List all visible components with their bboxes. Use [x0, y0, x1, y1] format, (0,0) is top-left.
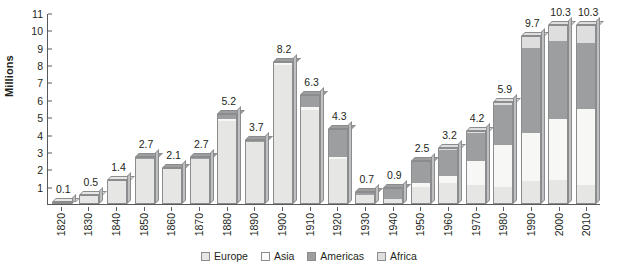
bar-column[interactable]: 3.7 [241, 14, 269, 204]
bar-segment-americas[interactable] [466, 133, 486, 161]
legend-item-label: Asia [274, 250, 294, 262]
bar-segment-europe[interactable] [328, 159, 348, 204]
stacked-bar[interactable] [355, 192, 375, 204]
bar-segment-asia[interactable] [493, 145, 513, 187]
bar-column[interactable]: 4.3 [324, 14, 352, 204]
x-axis-tick-label: 1890 [248, 213, 260, 236]
stacked-bar[interactable] [300, 95, 320, 204]
bar-segment-europe[interactable] [411, 187, 431, 204]
bar-value-label: 3.2 [442, 129, 457, 141]
bar-column[interactable]: 3.2 [434, 14, 462, 204]
stacked-bar[interactable] [438, 148, 458, 204]
bar-segment-asia[interactable] [438, 176, 458, 183]
bar-segment-europe[interactable] [438, 183, 458, 204]
stacked-bar[interactable] [521, 36, 541, 204]
y-axis-tick-mark [48, 83, 52, 84]
stacked-bar[interactable] [383, 188, 403, 204]
stacked-bar[interactable] [217, 114, 237, 204]
bar-segment-americas[interactable] [328, 129, 348, 157]
bar-column[interactable]: 8.2 [269, 14, 297, 204]
bar-column[interactable]: 0.9 [379, 14, 407, 204]
y-axis-tick-mark [48, 135, 52, 136]
bar-segment-europe[interactable] [245, 142, 265, 204]
stacked-bar[interactable] [107, 180, 127, 204]
stacked-bar[interactable] [245, 140, 265, 204]
x-axis-tick-mark [476, 207, 477, 211]
bar-column[interactable]: 4.2 [462, 14, 490, 204]
x-axis-tick: 1960 [434, 207, 462, 247]
bar-column[interactable]: 0.5 [76, 14, 104, 204]
bar-column[interactable]: 2.5 [407, 14, 435, 204]
bar-column[interactable]: 9.7 [517, 14, 545, 204]
bar-segment-americas[interactable] [548, 41, 568, 119]
stacked-bar[interactable] [79, 195, 99, 204]
bar-segment-americas[interactable] [438, 150, 458, 176]
bar-segment-europe[interactable] [355, 195, 375, 204]
bar-segment-europe[interactable] [273, 65, 293, 204]
legend-item[interactable]: Africa [377, 250, 417, 262]
bar-column[interactable]: 10.3 [545, 14, 573, 204]
bar-segment-africa[interactable] [521, 36, 541, 48]
bar-column[interactable]: 2.7 [186, 14, 214, 204]
bar-value-label: 4.3 [332, 110, 347, 122]
legend-item[interactable]: Asia [261, 250, 294, 262]
stacked-bar[interactable] [328, 129, 348, 204]
bar-segment-europe[interactable] [135, 159, 155, 204]
bar-column[interactable]: 5.9 [490, 14, 518, 204]
x-axis-tick-mark [448, 207, 449, 211]
bar-segment-europe[interactable] [162, 169, 182, 204]
x-axis-tick-mark [586, 207, 587, 211]
bar-segment-americas[interactable] [576, 43, 596, 109]
legend-item[interactable]: Americas [307, 250, 364, 262]
bar-segment-americas[interactable] [411, 161, 431, 184]
bar-segment-africa[interactable] [576, 25, 596, 42]
bar-segment-europe[interactable] [79, 195, 99, 204]
x-axis-tick: 1880 [213, 207, 241, 247]
bar-segment-europe[interactable] [300, 110, 320, 204]
bar-column[interactable]: 0.7 [352, 14, 380, 204]
stacked-bar[interactable] [576, 25, 596, 204]
x-axis-tick-mark [171, 207, 172, 211]
bar-segment-africa[interactable] [548, 25, 568, 41]
bar-segment-europe[interactable] [107, 180, 127, 204]
stacked-bar[interactable] [135, 157, 155, 204]
bar-segment-americas[interactable] [383, 188, 403, 198]
bar-segment-americas[interactable] [493, 105, 513, 145]
stacked-bar[interactable] [466, 131, 486, 204]
bar-segment-europe[interactable] [52, 202, 72, 204]
bar-segment-europe[interactable] [383, 199, 403, 204]
stacked-bar[interactable] [52, 202, 72, 204]
bar-column[interactable]: 2.7 [131, 14, 159, 204]
bar-segment-americas[interactable] [521, 48, 541, 133]
y-axis-tick-mark [48, 118, 52, 119]
bar-segment-europe[interactable] [548, 180, 568, 204]
y-axis-tick-mark [48, 66, 52, 67]
bar-column[interactable]: 1.4 [103, 14, 131, 204]
bar-column[interactable]: 6.3 [296, 14, 324, 204]
bar-segment-europe[interactable] [466, 185, 486, 204]
bar-segment-asia[interactable] [466, 161, 486, 185]
x-axis-tick-mark [559, 207, 560, 211]
bar-segment-europe[interactable] [190, 159, 210, 204]
stacked-bar[interactable] [190, 157, 210, 204]
bar-segment-europe[interactable] [576, 185, 596, 204]
bar-value-label: 1.4 [111, 161, 126, 173]
bar-segment-europe[interactable] [217, 121, 237, 204]
bar-segment-asia[interactable] [521, 133, 541, 182]
bar-segment-europe[interactable] [521, 181, 541, 204]
x-axis-tick-label: 1920 [331, 213, 343, 236]
bar-column[interactable]: 5.2 [214, 14, 242, 204]
stacked-bar[interactable] [162, 168, 182, 204]
bar-column[interactable]: 10.3 [572, 14, 600, 204]
bar-segment-americas[interactable] [300, 95, 320, 107]
bar-segment-asia[interactable] [548, 119, 568, 180]
stacked-bar[interactable] [411, 161, 431, 204]
bar-column[interactable]: 0.1 [48, 14, 76, 204]
stacked-bar[interactable] [273, 62, 293, 204]
legend-item[interactable]: Europe [201, 250, 248, 262]
stacked-bar[interactable] [493, 102, 513, 204]
bar-column[interactable]: 2.1 [158, 14, 186, 204]
bar-segment-europe[interactable] [493, 187, 513, 204]
stacked-bar[interactable] [548, 25, 568, 204]
bar-segment-asia[interactable] [576, 109, 596, 185]
